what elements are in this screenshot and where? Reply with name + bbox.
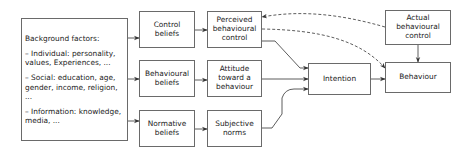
node-perceived-behavioural-control: Perceived behavioural control <box>207 11 262 48</box>
background-factors-heading: Background factors: <box>25 34 124 43</box>
node-normative-beliefs: Normative beliefs <box>139 110 195 147</box>
node-label: Behaviour <box>399 73 437 82</box>
node-behaviour: Behaviour <box>385 62 451 93</box>
node-label: Attitude toward a behaviour <box>208 65 261 92</box>
node-intention: Intention <box>308 63 371 95</box>
edge-perceived-control-to-intention <box>262 41 308 68</box>
node-label: Subjective norms <box>208 120 261 138</box>
background-factor-information: – Information: knowledge, media, ... <box>25 107 124 126</box>
node-label: Behavioural beliefs <box>140 70 194 88</box>
node-label: Normative beliefs <box>140 120 194 138</box>
node-label: Control beliefs <box>140 21 194 39</box>
node-label: Actual behavioural control <box>386 14 450 41</box>
background-factor-individual: – Individual: personality, values, Exper… <box>25 49 124 68</box>
node-control-beliefs: Control beliefs <box>139 11 195 48</box>
node-actual-behavioural-control: Actual behavioural control <box>385 10 451 45</box>
background-factors-box: Background factors: – Individual: person… <box>21 18 128 141</box>
edge-subjective-norms-to-intention <box>262 89 308 128</box>
node-behavioural-beliefs: Behavioural beliefs <box>139 60 195 97</box>
node-subjective-norms: Subjective norms <box>207 110 262 147</box>
edge-actual-control-to-perceived-control-dashed <box>262 14 385 27</box>
node-label: Perceived behavioural control <box>208 16 261 43</box>
node-attitude-toward-behaviour: Attitude toward a behaviour <box>207 60 262 97</box>
node-label: Intention <box>323 75 356 84</box>
background-factor-social: – Social: education, age, gender, income… <box>25 73 124 101</box>
